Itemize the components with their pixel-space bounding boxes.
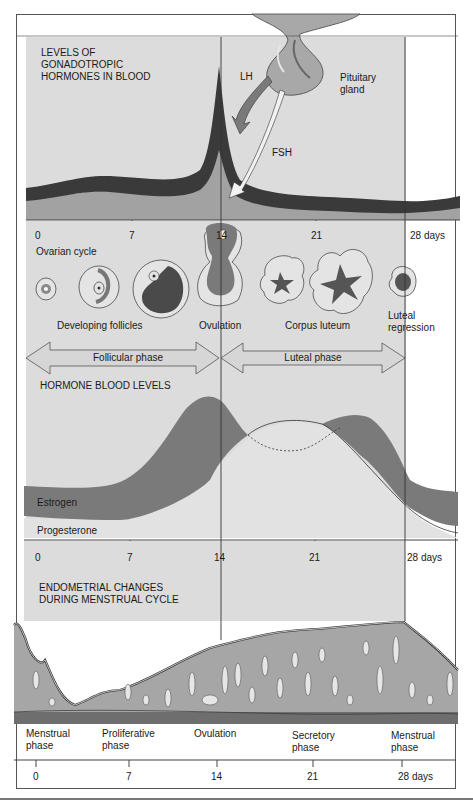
axis1-tick-21: 21: [311, 230, 322, 242]
endometrial-title-1: ENDOMETRIAL CHANGES: [39, 582, 163, 594]
corpus-luteum-label: Corpus luteum: [285, 320, 350, 332]
menstrual-phase-label-2a: Menstrual: [391, 730, 435, 742]
axis2-tick-14: 14: [214, 552, 225, 564]
proliferative-phase-label-b: phase: [102, 740, 129, 752]
gonadotropic-title-3: HORMONES IN BLOOD: [41, 71, 150, 83]
axis2-tick-21: 21: [309, 552, 320, 564]
ovulation-phase-label: Ovulation: [194, 728, 236, 740]
luteal-regression-label-1: Luteal: [388, 310, 415, 322]
proliferative-phase-label-a: Proliferative: [102, 728, 155, 740]
axis3-tick-7: 7: [126, 771, 132, 783]
follicular-phase-label: Follicular phase: [93, 352, 163, 364]
ovulation-label: Ovulation: [199, 320, 241, 332]
axis1-tick-0: 0: [35, 230, 41, 242]
estrogen-label: Estrogen: [37, 497, 77, 509]
hormone-levels-title: HORMONE BLOOD LEVELS: [40, 380, 171, 392]
fsh-label: FSH: [272, 147, 292, 159]
axis2-tick-7: 7: [127, 552, 133, 564]
axis1-tick-14: 14: [216, 230, 227, 242]
secretory-phase-label-b: phase: [292, 742, 319, 754]
secretory-phase-label-a: Secretory: [292, 730, 335, 742]
menstrual-phase-label-1a: Menstrual: [26, 728, 70, 740]
luteal-phase-label: Luteal phase: [284, 352, 341, 364]
bottom-rule: [0, 798, 473, 800]
ovarian-cycle-title: Ovarian cycle: [36, 246, 97, 258]
menstrual-phase-label-2b: phase: [391, 742, 418, 754]
axis1-tick-7: 7: [129, 230, 135, 242]
progesterone-label: Progesterone: [37, 525, 97, 537]
axis2-tick-28: 28 days: [407, 552, 442, 564]
axis3-tick-28: 28 days: [398, 771, 433, 783]
developing-follicles-label: Developing follicles: [57, 320, 143, 332]
axis3-tick-14: 14: [211, 771, 222, 783]
axis3-tick-21: 21: [307, 771, 318, 783]
menstrual-phase-label-1b: phase: [26, 740, 53, 752]
gonadotropic-title-1: LEVELS OF: [41, 47, 95, 59]
luteal-regression-label-2: regression: [388, 322, 435, 334]
endometrial-title-2: DURING MENSTRUAL CYCLE: [39, 594, 179, 606]
axis2-tick-0: 0: [35, 552, 41, 564]
luteal-regression: [389, 266, 416, 296]
endometrium-illustration: [14, 622, 458, 724]
follicle-stage-2: [79, 266, 119, 308]
gonadotropic-title-2: GONADOTROPIC: [41, 59, 123, 71]
axis3-tick-0: 0: [33, 771, 39, 783]
follicle-stage-1: [36, 278, 56, 300]
axis1-tick-28: 28 days: [410, 230, 445, 242]
pituitary-label-1: Pituitary: [340, 72, 376, 84]
pituitary-label-2: gland: [340, 84, 364, 96]
follicle-stage-3: [133, 260, 189, 318]
menstrual-cycle-diagram: [0, 0, 473, 810]
lh-label: LH: [240, 71, 253, 83]
